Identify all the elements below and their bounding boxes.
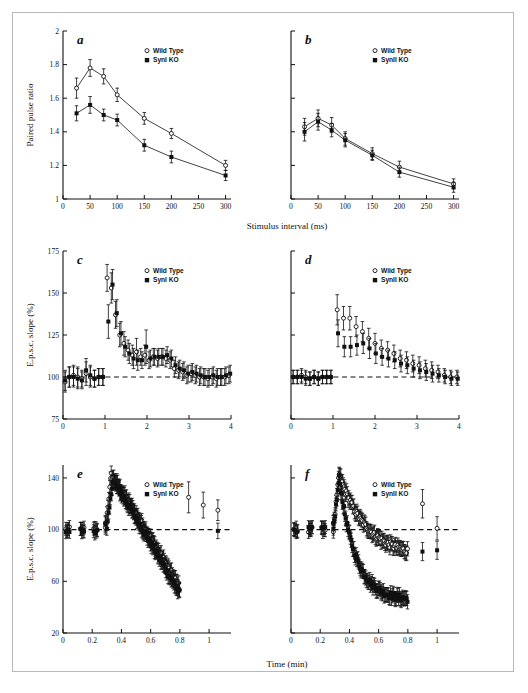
data-point-filled	[386, 357, 390, 361]
x-tick-label: 300	[220, 202, 232, 211]
x-tick-label: 0.2	[87, 636, 97, 645]
data-point-filled	[67, 530, 71, 534]
data-point-open	[88, 66, 92, 70]
x-tick-label: 200	[394, 202, 406, 211]
data-point-open	[201, 503, 205, 507]
x-tick-label: 4	[229, 422, 233, 431]
y-axis-label: Paired pulse ratio	[25, 83, 35, 146]
series-syni-ko	[75, 97, 228, 181]
y-tick-label: 125	[48, 331, 60, 340]
data-point-filled	[224, 173, 228, 177]
legend-marker-filled	[373, 58, 377, 62]
legend-label: Wild Type	[153, 47, 184, 55]
data-point-filled	[312, 375, 316, 379]
data-point-filled	[109, 492, 113, 496]
data-point-filled	[332, 519, 336, 523]
x-tick-label: 3	[187, 422, 191, 431]
data-point-filled	[295, 375, 299, 379]
data-point-open	[435, 526, 439, 530]
data-point-filled	[443, 375, 447, 379]
y-tick-label: 75	[51, 415, 59, 424]
data-point-filled	[431, 372, 435, 376]
data-point-filled	[75, 111, 79, 115]
data-point-filled	[449, 377, 453, 381]
data-point-filled	[153, 355, 157, 359]
legend-marker-open	[145, 269, 149, 273]
data-point-filled	[105, 527, 109, 531]
legend-label: Wild Type	[153, 481, 184, 489]
data-point-filled	[106, 320, 110, 324]
x-tick-label: 150	[367, 202, 379, 211]
x-tick-label: 250	[193, 202, 205, 211]
data-point-filled	[203, 375, 207, 379]
legend-marker-filled	[373, 278, 377, 282]
data-point-filled	[336, 331, 340, 335]
data-point-filled	[380, 355, 384, 359]
data-point-filled	[405, 363, 409, 367]
series-synii-ko	[292, 468, 439, 609]
legend-label: Wild Type	[381, 481, 412, 489]
data-point-open	[405, 551, 409, 555]
panel-letter-d: d	[305, 252, 312, 267]
legend-marker-open	[373, 269, 377, 273]
data-point-filled	[321, 375, 325, 379]
data-point-filled	[216, 375, 220, 379]
x-tick-label: 100	[339, 202, 351, 211]
legend-marker-filled	[145, 58, 149, 62]
x-axis-label: Stimulus interval (ms)	[247, 221, 328, 231]
data-point-filled	[132, 357, 136, 361]
y-tick-label: 20	[51, 629, 59, 638]
data-point-filled	[115, 311, 119, 315]
y-tick-label: 1.2	[50, 161, 60, 170]
x-tick-label: 150	[139, 202, 151, 211]
data-point-filled	[316, 120, 320, 124]
y-axis-label: E.p.s.c. slope (%)	[25, 303, 35, 366]
x-tick-label: 50	[86, 202, 94, 211]
panel-c: 7510012515017501234cE.p.s.c. slope (%)Wi…	[25, 247, 233, 431]
data-point-filled	[84, 368, 88, 372]
x-tick-label: 1	[435, 636, 439, 645]
x-tick-label: 0.2	[315, 636, 325, 645]
data-point-filled	[424, 370, 428, 374]
data-point-filled	[190, 370, 194, 374]
data-point-filled	[374, 351, 378, 355]
x-tick-label: 0.4	[117, 636, 127, 645]
data-point-filled	[361, 341, 365, 345]
x-tick-label: 0	[61, 636, 65, 645]
data-point-filled	[412, 367, 416, 371]
data-point-filled	[195, 372, 199, 376]
data-point-filled	[456, 377, 460, 381]
series-path	[305, 118, 454, 184]
series-wild-type	[292, 467, 439, 561]
legend-marker-open	[145, 483, 149, 487]
panel-b: 050100150200250300bWild TypeSynII KO	[289, 31, 459, 211]
data-point-filled	[310, 525, 314, 529]
data-point-filled	[211, 373, 215, 377]
data-point-filled	[97, 375, 101, 379]
data-point-filled	[323, 525, 327, 529]
data-point-filled	[115, 118, 119, 122]
data-point-open	[405, 358, 409, 362]
x-tick-label: 0	[289, 636, 293, 645]
x-tick-label: 2	[373, 422, 377, 431]
x-tick-label: 0.6	[374, 636, 384, 645]
data-point-filled	[418, 368, 422, 372]
legend-label: SynI KO	[153, 276, 179, 284]
data-point-filled	[220, 375, 224, 379]
series-path	[305, 122, 454, 188]
data-point-open	[411, 362, 415, 366]
y-tick-label: 1	[55, 195, 59, 204]
data-point-filled	[437, 373, 441, 377]
data-point-filled	[93, 377, 97, 381]
legend-marker-filled	[145, 278, 149, 282]
x-tick-label: 4	[457, 422, 461, 431]
y-tick-label: 100	[48, 525, 60, 534]
y-tick-label: 2	[55, 27, 59, 36]
data-point-filled	[333, 514, 337, 518]
panel-f: 00.20.40.60.81fWild TypeSynII KO	[289, 465, 459, 645]
x-tick-label: 200	[166, 202, 178, 211]
data-point-filled	[452, 185, 456, 189]
data-point-filled	[88, 373, 92, 377]
x-tick-label: 1	[207, 636, 211, 645]
data-point-filled	[177, 589, 181, 593]
